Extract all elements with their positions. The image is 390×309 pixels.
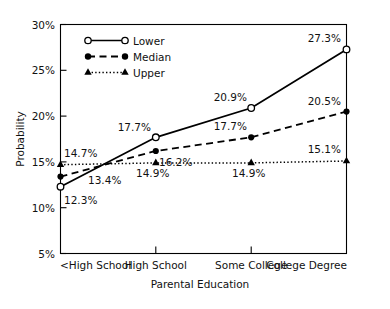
plot-frame: [61, 25, 347, 254]
label-upper-3: 15.1%: [308, 143, 341, 155]
y-axis-title: Probability: [14, 111, 26, 167]
series-median: [57, 109, 349, 180]
legend-marker-lower-start: [85, 37, 91, 43]
y-tick-label-15: 15%: [32, 156, 55, 168]
series-lower-line: [61, 49, 347, 186]
legend-label-median: Median: [133, 51, 171, 63]
legend-label-lower: Lower: [133, 35, 165, 47]
series-lower-marker-2: [248, 105, 255, 112]
data-point-labels: 14.7% 14.9% 14.9% 15.1% 13.4% 16.2% 17.7…: [64, 32, 341, 206]
y-tick-label-25: 25%: [32, 64, 55, 76]
label-upper-0: 14.7%: [64, 147, 97, 159]
series-lower-marker-3: [343, 46, 350, 53]
x-tick-label-lt-high-school: <High School: [60, 259, 131, 271]
legend-entry-upper[interactable]: Upper: [84, 67, 165, 79]
label-upper-2: 14.9%: [232, 167, 265, 179]
legend-marker-lower-end: [122, 37, 128, 43]
series-median-marker-3: [343, 109, 349, 115]
series-lower: [57, 46, 350, 190]
y-tick-label-5: 5%: [38, 248, 55, 260]
x-tick-label-high-school: High School: [125, 259, 187, 271]
label-median-2: 17.7%: [214, 120, 247, 132]
legend-entry-median[interactable]: Median: [85, 51, 171, 63]
x-axis-ticks: [156, 247, 251, 254]
y-axis-ticks: [61, 25, 67, 254]
chart-legend: Lower Median Upper: [84, 35, 171, 79]
series-median-marker-2: [248, 134, 254, 140]
legend-marker-upper-end: [121, 68, 128, 75]
label-lower-0: 12.3%: [64, 194, 97, 206]
y-tick-label-20: 20%: [32, 110, 55, 122]
x-axis-title: Parental Education: [151, 278, 250, 290]
label-lower-2: 20.9%: [214, 91, 247, 103]
legend-marker-median-end: [122, 53, 128, 59]
series-upper-marker-3: [343, 157, 350, 164]
y-axis-tick-labels: 30% 25% 20% 15% 10% 5%: [32, 19, 55, 260]
label-median-3: 20.5%: [308, 95, 341, 107]
series-lower-marker-1: [153, 134, 160, 141]
legend-entry-lower[interactable]: Lower: [85, 35, 165, 47]
x-axis-tick-labels: <High School High School Some College Co…: [60, 259, 347, 271]
series-upper-marker-2: [248, 159, 255, 166]
series-median-marker-0: [57, 174, 63, 180]
legend-marker-upper-start: [84, 68, 91, 75]
x-tick-label-college-degree: College Degree: [266, 259, 347, 271]
label-upper-1: 14.9%: [136, 167, 169, 179]
line-chart: 30% 25% 20% 15% 10% 5% <High School High…: [0, 0, 390, 309]
label-lower-1: 17.7%: [118, 121, 151, 133]
chart-svg: 30% 25% 20% 15% 10% 5% <High School High…: [0, 0, 390, 309]
label-lower-3: 27.3%: [308, 32, 341, 44]
series-median-line: [61, 112, 347, 177]
y-tick-label-30: 30%: [32, 19, 55, 31]
label-median-1: 16.2%: [159, 156, 192, 168]
y-tick-label-10: 10%: [32, 202, 55, 214]
series-median-marker-1: [153, 148, 159, 154]
series-lower-marker-0: [57, 183, 64, 190]
legend-marker-median-start: [85, 53, 91, 59]
label-median-0: 13.4%: [88, 174, 121, 186]
legend-label-upper: Upper: [133, 67, 165, 79]
